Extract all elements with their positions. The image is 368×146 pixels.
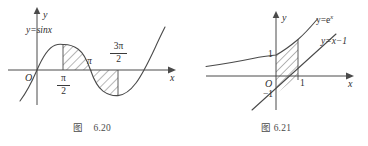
x-tick-3pi-over-2-denominator: 2	[110, 54, 127, 65]
x-tick-1: 1	[300, 79, 305, 89]
x-tick-pi-over-2-denominator: 2	[57, 86, 70, 97]
exponential-curve	[206, 20, 317, 67]
linear-curve-label: y=x−1	[321, 37, 347, 47]
x-axis-label: x	[348, 79, 352, 89]
shaded-region-2	[86, 66, 126, 102]
x-tick-3pi-over-2-numerator: 3π	[110, 42, 127, 53]
y-tick-minus-1: −1	[263, 90, 273, 100]
figure-caption-6-20: 图 6.20	[0, 120, 184, 134]
exponential-curve-label: y=ex	[316, 14, 333, 26]
y-axis-label: y	[43, 10, 47, 20]
x-tick-3pi-over-2: 3π 2	[110, 42, 127, 64]
figure-6-20: y x O y=sinx π 2 π 3π 2 图 6.20	[0, 0, 184, 146]
exp-line-plot	[184, 0, 368, 118]
y-axis-label: y	[282, 13, 286, 23]
sine-curve-label: y=sinx	[26, 26, 52, 36]
origin-label: O	[265, 79, 272, 89]
origin-label: O	[25, 73, 32, 83]
exponential-curve-label-main: y=e	[316, 15, 330, 25]
y-tick-1: 1	[268, 50, 273, 60]
sine-curve	[20, 27, 165, 101]
sine-plot	[0, 0, 184, 118]
figure-page: y x O y=sinx π 2 π 3π 2 图 6.20	[0, 0, 368, 146]
y-axis	[34, 7, 41, 105]
figure-6-21: y x O y=ex y=x−1 1 −1 1 图 6.21	[184, 0, 368, 146]
x-tick-pi-over-2-numerator: π	[57, 74, 70, 85]
exponential-curve-label-exponent: x	[330, 13, 333, 20]
x-axis-label: x	[170, 73, 174, 83]
x-tick-pi-over-2: π 2	[57, 74, 70, 96]
x-tick-pi: π	[87, 57, 92, 67]
figure-caption-6-21: 图 6.21	[184, 120, 368, 134]
